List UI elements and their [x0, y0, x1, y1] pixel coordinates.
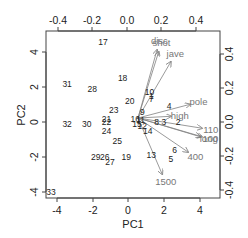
x-tick: -2	[88, 204, 97, 216]
observation-label: 3	[161, 117, 166, 127]
loading-label: 1500	[155, 176, 176, 187]
observation-label: 31	[62, 79, 72, 89]
y-axis-right: 0.4 0.2 0.0 -0.2 -0.4	[220, 47, 235, 199]
x-tick: 4	[197, 204, 203, 216]
observation-label: 33	[46, 187, 56, 197]
y-axis-left: 4 2 0 -2 -4 PC2	[15, 49, 46, 197]
observation-label: 13	[147, 150, 157, 160]
observation-label: 30	[82, 119, 92, 129]
right-tick: 0.0	[223, 115, 235, 130]
top-tick: 0.0	[120, 14, 135, 26]
x-tick: 2	[161, 204, 167, 216]
observation-label: 4	[167, 101, 172, 111]
right-tick: -0.4	[223, 181, 235, 199]
loading-label: 400	[188, 151, 204, 162]
observation-label: 20	[125, 96, 135, 106]
x-axis-bottom: -4 -2 0 2 4 PC1	[52, 198, 203, 230]
right-tick: 0.4	[223, 47, 235, 62]
observation-label: 14	[143, 126, 153, 136]
right-tick: -0.2	[223, 147, 235, 165]
y-tick: -2	[28, 152, 40, 161]
observation-label: 25	[113, 136, 123, 146]
y-tick: 2	[28, 84, 40, 90]
observation-label: 19	[121, 152, 131, 162]
x-axis-top: -0.4 -0.2 0.0 0.2 0.4	[49, 14, 203, 31]
observation-label: 18	[118, 73, 128, 83]
right-tick: 0.2	[223, 81, 235, 96]
y-tick: 0	[28, 119, 40, 125]
observation-label: 24	[102, 126, 112, 136]
observation-label: 2	[176, 117, 181, 127]
top-tick: -0.2	[83, 14, 101, 26]
loading-label: pole	[189, 96, 207, 107]
observation-label: 27	[105, 157, 115, 167]
biplot-chart: -4 -2 0 2 4 PC1 -0.4 -0.2 0.0 0.2 0.4 4 …	[0, 0, 248, 238]
loading-label: 100	[203, 133, 219, 144]
y-tick: -4	[28, 187, 40, 196]
loading-label: jave	[166, 48, 184, 59]
top-tick: 0.2	[154, 14, 169, 26]
observation-label: 5	[169, 154, 174, 164]
loading-labels: discshotjavepolehigh110long1004001500	[151, 35, 218, 187]
observation-label: 28	[87, 84, 97, 94]
observation-label: 8	[154, 117, 159, 127]
x-tick: 0	[125, 204, 131, 216]
x-tick: -4	[52, 204, 61, 216]
top-tick: -0.4	[49, 14, 67, 26]
x-axis-title: PC1	[122, 218, 143, 230]
observation-label: 7	[149, 94, 154, 104]
y-tick: 4	[28, 49, 40, 55]
y-axis-title: PC2	[15, 104, 27, 125]
observation-label: 32	[62, 119, 72, 129]
top-tick: 0.4	[189, 14, 204, 26]
observation-label: 17	[98, 37, 108, 47]
observation-labels: 1731281820101742392122323024161511128321…	[46, 37, 180, 198]
loading-label: shot	[152, 37, 170, 48]
